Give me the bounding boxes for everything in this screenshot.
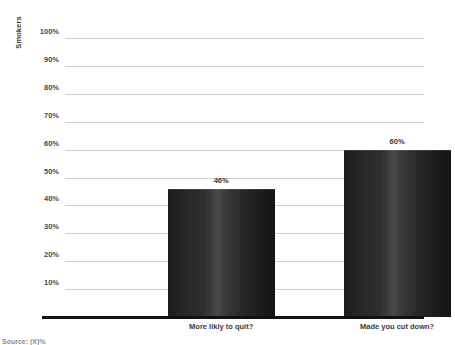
plot-area: 10%20%30%40%50%60%70%80%90%100%46%60% bbox=[65, 38, 424, 317]
y-axis-tick-label: 30% bbox=[44, 222, 59, 231]
gridline bbox=[65, 66, 424, 67]
source-note: Source: (X)% bbox=[2, 338, 46, 345]
bar-value-label: 60% bbox=[344, 137, 451, 146]
y-axis-tick-label: 40% bbox=[44, 194, 59, 203]
bar: 46% bbox=[168, 189, 275, 317]
gridline bbox=[65, 38, 424, 39]
bar: 60% bbox=[344, 150, 451, 317]
y-axis-title: Smokers bbox=[14, 0, 23, 69]
y-axis-tick-label: 90% bbox=[44, 55, 59, 64]
y-axis-tick-label: 20% bbox=[44, 250, 59, 259]
y-axis-tick-label: 80% bbox=[44, 83, 59, 92]
x-axis-line bbox=[42, 316, 424, 319]
y-axis-tick-label: 60% bbox=[44, 139, 59, 148]
y-axis-tick-label: 100% bbox=[40, 27, 59, 36]
y-axis-tick-label: 50% bbox=[44, 167, 59, 176]
gridline bbox=[65, 122, 424, 123]
y-axis-tick-label: 70% bbox=[44, 111, 59, 120]
y-axis-tick-label: 10% bbox=[44, 278, 59, 287]
x-axis-category-label: Made you cut down? bbox=[290, 322, 455, 331]
gridline bbox=[65, 94, 424, 95]
bar-value-label: 46% bbox=[168, 176, 275, 185]
